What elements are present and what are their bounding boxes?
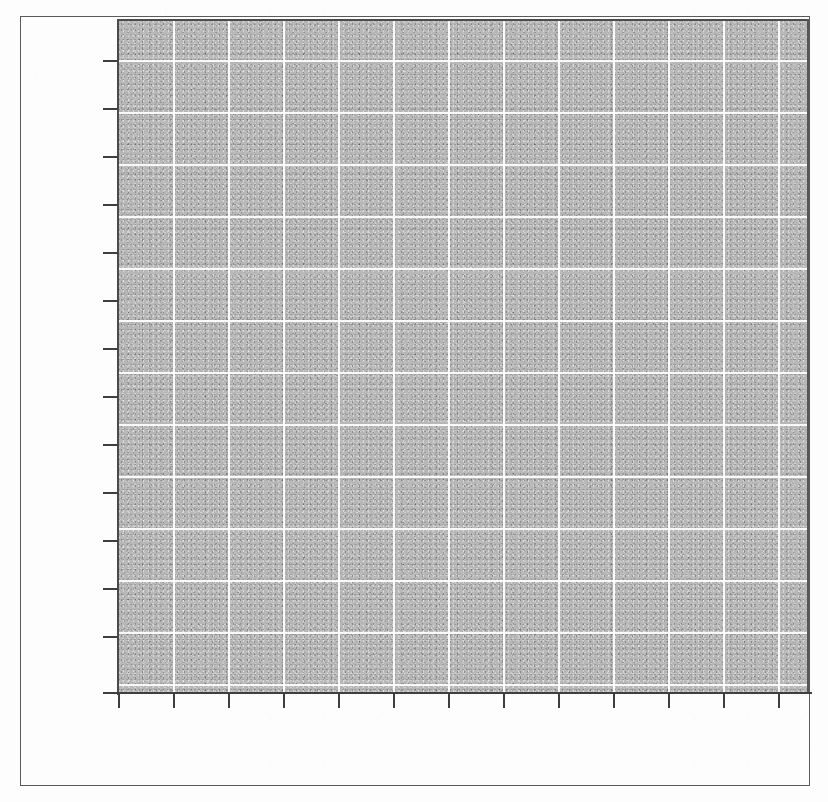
- y-axis-tick: [103, 588, 118, 590]
- y-axis-tick: [103, 156, 118, 158]
- chart-figure: [20, 16, 810, 786]
- y-axis-tick: [103, 692, 118, 694]
- y-axis-tick: [103, 204, 118, 206]
- x-axis-tick: [558, 694, 560, 708]
- y-axis-tick: [103, 444, 118, 446]
- x-axis-tick: [668, 694, 670, 708]
- y-axis-tick: [103, 540, 118, 542]
- y-axis-tick: [103, 300, 118, 302]
- x-axis-tick: [503, 694, 505, 708]
- x-axis-tick: [393, 694, 395, 708]
- x-axis-tick: [448, 694, 450, 708]
- x-axis-tick: [173, 694, 175, 708]
- y-axis-tick: [103, 492, 118, 494]
- plot-right-spine: [807, 19, 809, 694]
- y-axis-tick: [103, 60, 118, 62]
- x-axis-tick: [778, 694, 780, 708]
- x-axis-spine: [112, 692, 812, 694]
- x-axis-tick: [228, 694, 230, 708]
- x-axis-tick: [613, 694, 615, 708]
- scanned-page: [0, 0, 828, 802]
- noise-texture-layer-secondary: [118, 20, 808, 692]
- x-axis-tick: [723, 694, 725, 708]
- y-axis-tick: [103, 636, 118, 638]
- plot-top-spine: [118, 19, 808, 21]
- y-axis-spine: [117, 19, 119, 695]
- plot-data-area: [118, 20, 808, 692]
- y-axis-tick: [103, 348, 118, 350]
- x-axis-tick: [338, 694, 340, 708]
- x-axis-tick: [118, 694, 120, 708]
- y-axis-tick: [103, 396, 118, 398]
- y-axis-tick: [103, 252, 118, 254]
- x-axis-tick: [283, 694, 285, 708]
- y-axis-tick: [103, 108, 118, 110]
